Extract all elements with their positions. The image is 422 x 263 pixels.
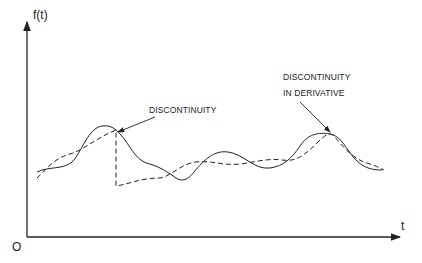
derivative-label-line2: IN DERIVATIVE (283, 88, 345, 98)
discontinuity-leader (118, 117, 155, 132)
discontinuity-label: DISCONTINUITY (149, 105, 217, 115)
x-axis-label: t (401, 219, 405, 233)
y-axis-label: f(t) (33, 8, 48, 22)
derivative-label-line1: DISCONTINUITY (283, 72, 351, 82)
signal-diagram: f(t) t O DISCONTINUITY DISCONTINUITY IN … (0, 0, 422, 263)
derivative-leader (300, 102, 330, 132)
origin-label: O (12, 240, 21, 254)
dashed-curve (37, 130, 384, 186)
